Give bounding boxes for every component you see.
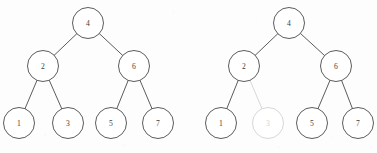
node-label: 3 (66, 119, 70, 128)
node-label: 7 (356, 119, 360, 128)
tree-node-right-tree-4[interactable]: 4 (274, 8, 305, 39)
tree-node-left-tree-6[interactable]: 6 (119, 51, 150, 82)
nodes-layer: 42613574261357 (4, 8, 374, 139)
tree-node-right-tree-2[interactable]: 2 (229, 51, 260, 82)
node-label: 2 (242, 62, 246, 71)
node-label: 5 (109, 119, 113, 128)
node-label: 1 (219, 119, 223, 128)
tree-node-right-tree-7[interactable]: 7 (343, 108, 374, 139)
tree-edge-2-3 (250, 80, 262, 108)
node-label: 7 (156, 119, 160, 128)
node-label: 1 (17, 119, 21, 128)
tree-edge-2-1 (25, 80, 37, 108)
tree-node-left-tree-5[interactable]: 5 (96, 108, 127, 139)
node-label: 5 (310, 119, 314, 128)
tree-edge-2-1 (227, 80, 238, 108)
tree-node-right-tree-1[interactable]: 1 (206, 108, 237, 139)
tree-node-left-tree-3[interactable]: 3 (53, 108, 84, 139)
tree-edge-6-7 (342, 80, 353, 108)
binary-tree-figure: 42613574261357 (0, 0, 377, 153)
tree-node-left-tree-4[interactable]: 4 (73, 8, 104, 39)
node-label: 4 (86, 19, 90, 28)
tree-node-right-tree-3[interactable]: 3 (253, 108, 284, 139)
tree-edge-6-5 (117, 80, 128, 108)
tree-edge-4-2 (54, 34, 77, 56)
tree-edge-6-7 (140, 80, 152, 108)
tree-diagram-canvas: 42613574261357 (0, 0, 377, 153)
tree-node-right-tree-5[interactable]: 5 (297, 108, 328, 139)
node-label: 3 (266, 119, 270, 128)
tree-node-left-tree-1[interactable]: 1 (4, 108, 35, 139)
node-label: 6 (334, 62, 338, 71)
tree-node-left-tree-2[interactable]: 2 (28, 51, 59, 82)
node-label: 2 (41, 62, 45, 71)
edges-layer (25, 33, 352, 108)
tree-node-left-tree-7[interactable]: 7 (143, 108, 174, 139)
tree-edge-2-3 (49, 80, 62, 109)
node-label: 4 (287, 19, 291, 28)
tree-edge-4-6 (300, 33, 324, 55)
tree-edge-4-2 (255, 34, 278, 56)
tree-node-right-tree-6[interactable]: 6 (321, 51, 352, 82)
tree-edge-6-5 (318, 80, 330, 108)
tree-edge-4-6 (99, 34, 122, 56)
node-label: 6 (132, 62, 136, 71)
